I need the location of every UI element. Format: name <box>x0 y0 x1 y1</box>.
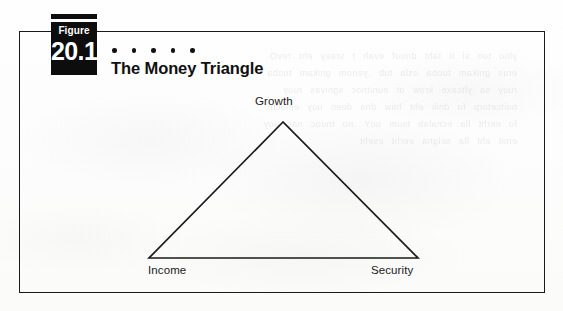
badge-number-label: 20.1 <box>51 38 97 65</box>
figure-number-badge: Figure 20.1 <box>51 14 97 75</box>
vertex-label-income: Income <box>148 264 186 276</box>
decorative-dot <box>132 48 137 53</box>
figure-title: The Money Triangle <box>111 59 263 78</box>
decorative-dot <box>151 48 156 53</box>
vertex-label-growth: Growth <box>255 95 293 107</box>
badge-body: Figure 20.1 <box>51 22 97 75</box>
decorative-dot <box>112 48 117 53</box>
decorative-dot-rule <box>112 48 195 53</box>
figure-page: ylno ton si ti taht dnuof evah I sraey e… <box>0 0 563 311</box>
badge-word-label: Figure <box>51 24 97 37</box>
figure-border-box <box>19 31 545 293</box>
vertex-label-security: Security <box>371 264 413 276</box>
decorative-dot <box>190 48 195 53</box>
decorative-dot <box>171 48 176 53</box>
